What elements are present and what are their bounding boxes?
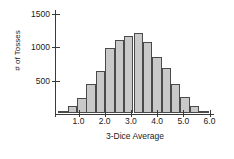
- histogram-bar: [124, 36, 133, 113]
- histogram-bar: [162, 68, 171, 113]
- x-axis-tick-labels: 1.0 2.0 3.0 4.0 5.0 6.0: [55, 117, 225, 129]
- x-tick-label-4: 4.0: [145, 117, 169, 126]
- histogram-bar: [86, 84, 95, 113]
- x-tick-mark-spacer: [55, 110, 56, 117]
- x-tick-label-1: 1.0: [67, 117, 91, 126]
- histogram-bar: [180, 97, 189, 113]
- histogram-bar: [96, 71, 105, 113]
- histogram-bar: [190, 106, 199, 113]
- histogram-bar: [199, 111, 208, 113]
- bar-series: [55, 10, 215, 114]
- y-tick-label-1000: 1000: [20, 43, 50, 51]
- y-tick-label-1500: 1500: [20, 10, 50, 18]
- plot-area: [55, 10, 215, 115]
- x-tick-label-5: 5.0: [171, 117, 195, 126]
- histogram-bar: [115, 40, 124, 113]
- y-tick-label-500: 500: [20, 77, 50, 85]
- histogram-bar: [134, 33, 143, 113]
- x-tick-label-6: 6.0: [198, 117, 222, 126]
- y-axis-tick-labels: 1500 1000 500: [16, 0, 50, 159]
- histogram-bar: [68, 106, 77, 113]
- x-tick-label-3: 3.0: [119, 117, 143, 126]
- histogram-bar: [143, 42, 152, 114]
- histogram-bar: [171, 84, 180, 113]
- histogram-bar: [152, 57, 161, 113]
- histogram-figure: # of Tosses 1500 1000 500 1.0 2.0 3.0 4.…: [0, 0, 234, 159]
- histogram-bar: [105, 48, 114, 113]
- x-axis-title: 3-Dice Average: [55, 131, 215, 141]
- histogram-bar: [58, 111, 67, 113]
- x-tick-label-2: 2.0: [93, 117, 117, 126]
